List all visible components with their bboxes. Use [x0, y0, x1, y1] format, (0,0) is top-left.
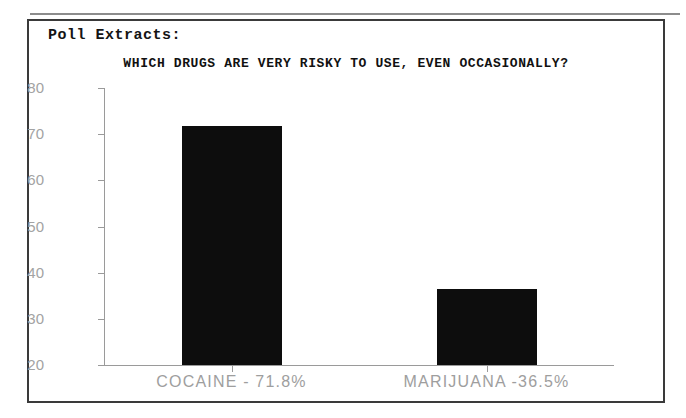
- y-axis-line: [104, 88, 105, 366]
- bar-chart-plot-area: 80706050403020 COCAINE - 71.8%MARIJUANA …: [29, 21, 663, 401]
- x-axis-category-label: COCAINE - 71.8%: [104, 373, 359, 391]
- x-axis-category-label: MARIJUANA -36.5%: [359, 373, 614, 391]
- y-axis-tick-label: 20: [4, 357, 44, 372]
- poll-extracts-figure: Poll Extracts: WHICH DRUGS ARE VERY RISK…: [27, 19, 665, 403]
- y-axis-tick: [98, 227, 104, 228]
- y-axis-tick: [98, 273, 104, 274]
- x-axis-tick: [487, 366, 488, 372]
- bar-cocaine: [182, 126, 282, 365]
- y-axis-tick-label: 70: [4, 126, 44, 141]
- x-axis-tick: [232, 366, 233, 372]
- y-axis-tick: [98, 134, 104, 135]
- bar-marijuana: [437, 289, 537, 365]
- y-axis-tick: [98, 180, 104, 181]
- y-axis-tick-label: 40: [4, 265, 44, 280]
- y-axis-tick-label: 30: [4, 311, 44, 326]
- y-axis-tick: [98, 365, 104, 366]
- scan-artifact-rule: [30, 13, 680, 15]
- y-axis-tick-label: 60: [4, 172, 44, 187]
- x-axis-line: [104, 365, 614, 366]
- y-axis-tick-label: 80: [4, 80, 44, 95]
- y-axis-tick-label: 50: [4, 219, 44, 234]
- y-axis-tick: [98, 319, 104, 320]
- y-axis-tick: [98, 88, 104, 89]
